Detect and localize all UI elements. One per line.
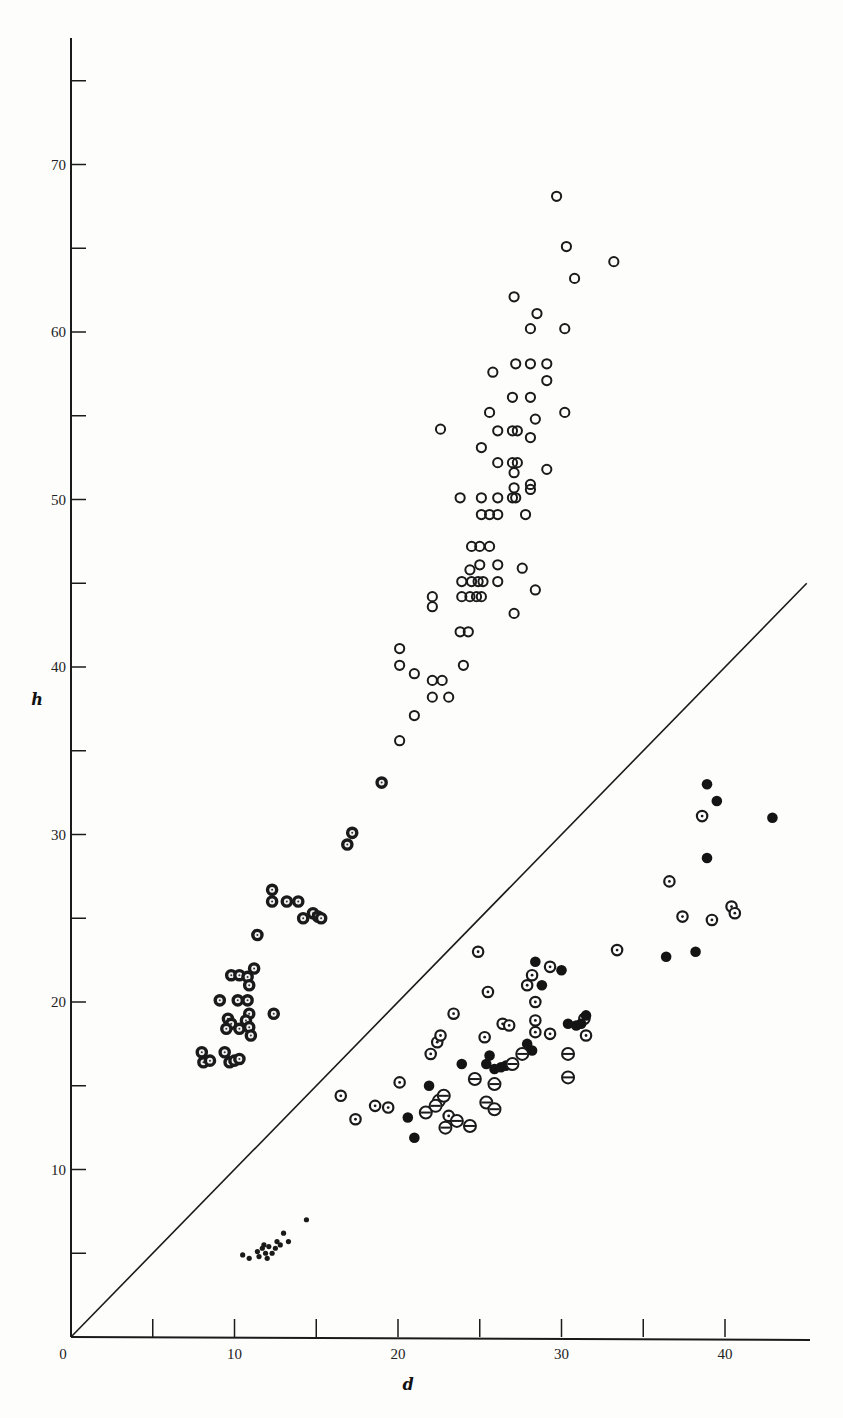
open-circle-marker <box>526 393 535 402</box>
x-tick-label: 0 <box>59 1346 67 1362</box>
y-axis-title: h <box>31 690 43 709</box>
small-dot-marker <box>255 1249 260 1254</box>
open-circle-marker <box>518 564 527 573</box>
open-circle-marker <box>457 577 466 586</box>
y-tick-label: 10 <box>51 1162 66 1178</box>
marker-center-dot <box>508 1024 511 1027</box>
open-circle-marker <box>477 443 486 452</box>
open-circle-marker <box>509 468 518 477</box>
open-circle-marker <box>532 309 541 318</box>
open-circle-marker <box>508 393 517 402</box>
open-circle-marker <box>542 376 551 385</box>
open-circle-marker <box>459 661 468 670</box>
marker-center-dot <box>733 912 736 915</box>
open-circle-marker <box>488 368 497 377</box>
open-circle-marker <box>438 676 447 685</box>
open-circle-marker <box>526 324 535 333</box>
filled-circle-marker <box>767 812 778 823</box>
filled-circle-marker <box>409 1132 420 1143</box>
filled-circle-marker <box>456 1059 467 1070</box>
open-circle-marker <box>493 426 502 435</box>
small-dot-marker <box>265 1256 270 1261</box>
marker-center-dot <box>549 965 552 968</box>
open-circle-marker <box>485 542 494 551</box>
open-circle-marker <box>511 359 520 368</box>
marker-center-dot <box>209 1060 211 1062</box>
marker-center-dot <box>238 1058 240 1060</box>
filled-circle-marker <box>702 779 713 790</box>
x-tick-label: 10 <box>227 1346 242 1362</box>
marker-center-dot <box>225 1028 227 1030</box>
axes: 01020304010203040506070 <box>51 38 810 1362</box>
marker-center-dot <box>534 1001 537 1004</box>
marker-center-dot <box>381 782 383 784</box>
open-circle-marker <box>428 676 437 685</box>
marker-center-dot <box>247 976 249 978</box>
open-circle-marker <box>493 577 502 586</box>
small-dot-marker <box>281 1231 286 1236</box>
marker-center-dot <box>237 999 239 1001</box>
open-circle-marker <box>493 493 502 502</box>
marker-center-dot <box>447 1115 450 1118</box>
marker-center-dot <box>273 1013 275 1015</box>
marker-center-dot <box>483 1036 486 1039</box>
open-circle-marker <box>560 324 569 333</box>
marker-center-dot <box>354 1118 357 1121</box>
marker-center-dot <box>297 901 299 903</box>
open-circle-marker <box>542 465 551 474</box>
marker-center-dot <box>351 832 353 834</box>
open-circle-marker <box>493 458 502 467</box>
series-filled-circle <box>403 779 778 1143</box>
open-circle-marker <box>456 493 465 502</box>
open-circle-marker <box>526 433 535 442</box>
open-circle-marker <box>410 711 419 720</box>
marker-center-dot <box>201 1051 203 1053</box>
open-circle-marker <box>531 585 540 594</box>
open-circle-marker <box>526 359 535 368</box>
marker-center-dot <box>534 1019 537 1022</box>
filled-circle-marker <box>581 1010 592 1021</box>
y-tick-label: 70 <box>51 157 66 173</box>
small-dot-marker <box>286 1239 291 1244</box>
open-circle-marker <box>509 292 518 301</box>
small-dot-marker <box>261 1242 266 1247</box>
marker-center-dot <box>339 1094 342 1097</box>
marker-center-dot <box>248 1026 250 1028</box>
marker-center-dot <box>248 1013 250 1015</box>
y-tick-label: 60 <box>51 324 66 340</box>
open-circle-marker <box>395 736 404 745</box>
open-circle-marker <box>465 565 474 574</box>
series-heavy-ring-dot <box>197 778 386 1067</box>
marker-center-dot <box>230 974 232 976</box>
open-circle-marker <box>395 644 404 653</box>
open-circle-marker <box>477 493 486 502</box>
marker-center-dot <box>224 1051 226 1053</box>
filled-circle-marker <box>712 796 723 807</box>
filled-circle-marker <box>537 980 548 991</box>
marker-center-dot <box>247 999 249 1001</box>
marker-center-dot <box>248 984 250 986</box>
diagonal-line <box>71 583 807 1337</box>
small-dot-marker <box>266 1244 271 1249</box>
marker-center-dot <box>286 901 288 903</box>
x-tick-label: 30 <box>554 1346 569 1362</box>
open-circle-marker <box>509 609 518 618</box>
small-dot-marker <box>278 1242 283 1247</box>
marker-center-dot <box>668 880 671 883</box>
marker-center-dot <box>387 1106 390 1109</box>
marker-center-dot <box>439 1034 442 1037</box>
marker-center-dot <box>429 1053 432 1056</box>
open-circle-marker <box>509 483 518 492</box>
marker-center-dot <box>487 991 490 994</box>
open-circle-marker <box>570 274 579 283</box>
marker-center-dot <box>549 1032 552 1035</box>
marker-center-dot <box>477 950 480 953</box>
marker-center-dot <box>253 968 255 970</box>
marker-center-dot <box>346 844 348 846</box>
marker-center-dot <box>219 999 221 1001</box>
open-circle-marker <box>521 510 530 519</box>
marker-center-dot <box>271 901 273 903</box>
marker-center-dot <box>238 1028 240 1030</box>
series-bar-circle <box>420 1048 574 1134</box>
marker-center-dot <box>531 974 534 977</box>
